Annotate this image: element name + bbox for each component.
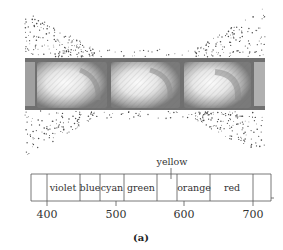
tick-label-500: 500	[106, 209, 127, 220]
spectrum-figure: violet blue cyan green orange red yellow…	[0, 0, 283, 250]
partial-cell-left	[25, 62, 35, 106]
tick-label-400: 400	[37, 209, 58, 220]
band-label-red: red	[224, 183, 240, 193]
figure-caption: (a)	[133, 232, 149, 243]
band-label-yellow: yellow	[157, 157, 188, 167]
glass-cell-strip	[25, 58, 265, 110]
band-label-orange: orange	[177, 183, 211, 193]
band-label-green: green	[127, 183, 155, 193]
band-label-blue: blue	[80, 183, 101, 193]
band-label-cyan: cyan	[101, 183, 123, 193]
partial-cell-right	[254, 62, 265, 106]
tick-label-700: 700	[243, 209, 264, 220]
tick-label-600: 600	[174, 209, 195, 220]
band-label-violet: violet	[50, 183, 77, 193]
